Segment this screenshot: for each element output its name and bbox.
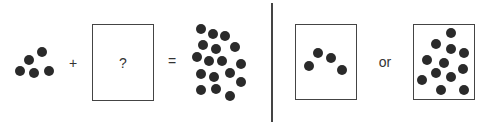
dot [196,69,206,79]
dot [236,59,246,69]
dot [198,40,208,50]
dot [458,64,468,74]
dot [196,85,206,95]
question-mark: ? [119,55,127,71]
dot [422,55,432,65]
dot [436,85,446,95]
divider-line [271,3,273,122]
dot [439,58,449,68]
dot [192,52,202,62]
dot [225,68,235,78]
diagram-canvas: + ? = or [0,0,491,126]
dot [196,24,206,34]
dot [230,42,240,52]
dot [337,65,347,75]
dot [208,29,218,39]
dot [313,48,323,58]
dot [29,68,39,78]
dot [211,44,221,54]
dot [225,91,235,101]
dot [417,75,427,85]
plus-sign: + [69,55,77,71]
dot [211,84,221,94]
dot [44,66,54,76]
dot [15,66,25,76]
dot [459,48,469,58]
dot [204,56,214,66]
dot [446,72,456,82]
dot [236,77,246,87]
dot [209,72,219,82]
dot [304,61,314,71]
dot [220,31,230,41]
dot [431,39,441,49]
dot [217,56,227,66]
dot [446,28,456,38]
or-label: or [379,54,391,70]
unknown-box: ? [92,24,154,101]
dot [24,55,34,65]
dot [37,47,47,57]
dot [326,53,336,63]
equals-sign: = [168,53,176,69]
dot [446,44,456,54]
dot [431,68,441,78]
dot [459,85,469,95]
